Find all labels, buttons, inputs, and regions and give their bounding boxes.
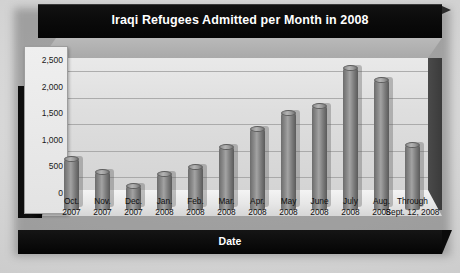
chart-title: Iraqi Refugees Admitted per Month in 200… xyxy=(38,13,442,27)
x-axis-tick-line: Sept. 12, 2008 xyxy=(378,207,448,218)
bar-cap xyxy=(281,110,296,116)
bar xyxy=(374,80,389,210)
x-axis-title: Date xyxy=(18,235,442,247)
x-axis-band-bevel xyxy=(442,230,452,254)
chart-title-band: Iraqi Refugees Admitted per Month in 200… xyxy=(38,4,442,38)
x-axis-tick-label: ThroughSept. 12, 2008 xyxy=(378,196,448,217)
plot-ceiling xyxy=(42,38,442,58)
bar-cap xyxy=(188,164,203,170)
chart-frame: Iraqi Refugees Admitted per Month in 200… xyxy=(10,4,446,250)
x-axis-ticks: Oct.2007Nov.2007Dec.2007Jan.2008Feb.2008… xyxy=(42,196,442,230)
bar-cap xyxy=(64,156,79,162)
bar xyxy=(343,68,358,210)
bar-body xyxy=(312,106,327,210)
bar-series xyxy=(56,58,428,216)
plot-right-wall xyxy=(428,58,442,210)
bar-cap xyxy=(219,144,234,150)
bar-cap xyxy=(312,103,327,109)
x-axis-tick-line: Through xyxy=(378,196,448,207)
x-axis-title-band: Date xyxy=(18,230,442,254)
bar xyxy=(312,106,327,210)
bar-cap xyxy=(250,126,265,132)
bar-body xyxy=(374,80,389,210)
title-band-bevel xyxy=(442,6,451,14)
bar-body xyxy=(343,68,358,210)
